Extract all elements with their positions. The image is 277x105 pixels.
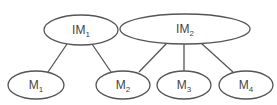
node-label-subscript: 2 bbox=[189, 29, 194, 38]
node-label-subscript: 1 bbox=[85, 30, 90, 39]
hierarchy-diagram: IM1IM2M1M2M3M4 bbox=[0, 0, 277, 105]
node-label-subscript: 1 bbox=[39, 85, 44, 94]
edges-group bbox=[48, 43, 233, 72]
edge-im2-m2 bbox=[139, 43, 167, 72]
node-m3: M3 bbox=[157, 71, 211, 99]
edge-im1-m2 bbox=[92, 44, 111, 72]
node-im1: IM1 bbox=[44, 15, 118, 45]
node-m1: M1 bbox=[8, 71, 64, 99]
node-label-base: M bbox=[116, 78, 126, 92]
node-label-base: M bbox=[239, 78, 249, 92]
edge-im2-m4 bbox=[201, 43, 233, 72]
node-label-base: IM bbox=[176, 22, 189, 36]
node-label-subscript: 4 bbox=[249, 85, 254, 94]
node-m2: M2 bbox=[96, 71, 150, 99]
edge-im1-m1 bbox=[48, 44, 67, 72]
nodes-group: IM1IM2M1M2M3M4 bbox=[8, 14, 273, 99]
node-label-base: IM bbox=[72, 23, 85, 37]
node-label-subscript: 3 bbox=[187, 85, 192, 94]
node-label-subscript: 2 bbox=[126, 85, 131, 94]
node-label-base: M bbox=[29, 78, 39, 92]
node-im2: IM2 bbox=[120, 14, 250, 44]
node-label-base: M bbox=[177, 78, 187, 92]
node-m4: M4 bbox=[219, 71, 273, 99]
